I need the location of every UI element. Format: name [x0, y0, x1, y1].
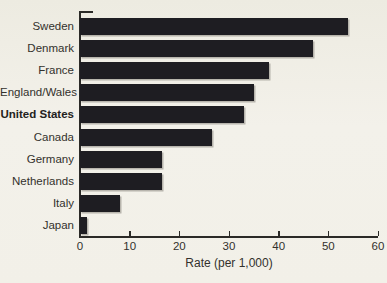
x-tick-label-30: 30 — [214, 240, 244, 252]
x-tick-20 — [179, 231, 181, 236]
bar-netherlands — [80, 173, 162, 190]
bar-sweden — [80, 18, 348, 35]
bar-united-states — [80, 106, 244, 123]
bar-japan — [80, 217, 87, 234]
category-label-japan: Japan — [0, 215, 74, 236]
bar-italy — [80, 195, 120, 212]
x-tick-30 — [229, 231, 231, 236]
x-tick-label-50: 50 — [313, 240, 343, 252]
category-label-england-wales: England/Wales — [0, 82, 74, 103]
x-tick-label-20: 20 — [164, 240, 194, 252]
x-tick-60 — [378, 231, 380, 236]
x-tick-50 — [328, 231, 330, 236]
category-label-sweden: Sweden — [0, 16, 74, 37]
category-label-france: France — [0, 60, 74, 81]
x-tick-label-0: 0 — [65, 240, 95, 252]
x-axis-line — [79, 236, 378, 238]
category-label-netherlands: Netherlands — [0, 171, 74, 192]
bar-germany — [80, 151, 162, 168]
x-tick-label-60: 60 — [363, 240, 387, 252]
x-axis-title: Rate (per 1,000) — [149, 256, 309, 270]
bar-france — [80, 62, 269, 79]
x-tick-40 — [278, 231, 280, 236]
category-label-italy: Italy — [0, 193, 74, 214]
category-label-united-states: United States — [0, 104, 74, 125]
category-label-denmark: Denmark — [0, 38, 74, 59]
category-label-germany: Germany — [0, 149, 74, 170]
x-tick-label-10: 10 — [115, 240, 145, 252]
bar-denmark — [80, 40, 313, 57]
bar-england-wales — [80, 84, 254, 101]
category-label-canada: Canada — [0, 127, 74, 148]
x-tick-10 — [129, 231, 131, 236]
y-axis-top-cap — [79, 11, 93, 13]
x-tick-label-40: 40 — [264, 240, 294, 252]
bar-canada — [80, 129, 212, 146]
horizontal-bar-chart: SwedenDenmarkFranceEngland/WalesUnited S… — [0, 0, 387, 283]
